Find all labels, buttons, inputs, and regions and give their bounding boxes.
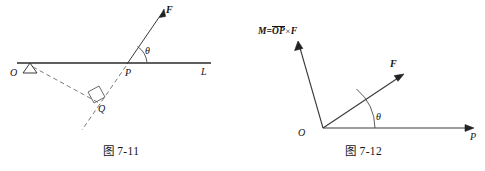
- moment-operand-F: F: [291, 26, 297, 36]
- label-axis-P: P: [470, 132, 476, 142]
- moment-vector-OP: OP: [272, 26, 285, 37]
- moment-arrowhead-icon: [295, 41, 303, 51]
- label-angle-theta: θ: [145, 46, 150, 56]
- label-angle-theta: θ: [376, 112, 381, 122]
- figure-7-11: O L P Q F θ 图 7-11: [0, 0, 242, 171]
- segment-OQ-dashed: [33, 67, 101, 104]
- moment-prefix: M=: [258, 26, 272, 36]
- label-point-Q: Q: [98, 104, 105, 114]
- label-line-L: L: [201, 67, 207, 77]
- force-vector-line: [323, 78, 398, 128]
- figure-7-12: O P F θ M=OP×F 图 7-12: [242, 0, 485, 171]
- label-force-F: F: [166, 5, 173, 15]
- force-vector-line: [127, 13, 162, 64]
- label-moment-expression: M=OP×F: [258, 26, 297, 37]
- label-origin-O: O: [298, 128, 305, 138]
- label-force-F: F: [390, 59, 397, 69]
- figure-7-11-caption: 图 7-11: [0, 142, 242, 158]
- figure-7-12-drawing: [242, 0, 485, 140]
- force-arrowhead-icon: [159, 9, 165, 18]
- label-origin-O: O: [10, 68, 17, 78]
- label-point-P: P: [125, 68, 131, 78]
- moment-vector-line: [300, 48, 323, 128]
- figure-7-12-caption: 图 7-12: [242, 142, 485, 158]
